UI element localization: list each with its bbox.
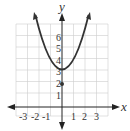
y-axis-label: y — [57, 0, 65, 14]
parabola-chart: y x -3 -2 -1 1 2 3 1 2 3 4 5 6 — [0, 0, 130, 131]
svg-text:3: 3 — [56, 66, 61, 77]
x-axis-right-arrow-icon — [112, 104, 120, 110]
svg-text:-2: -2 — [31, 111, 39, 122]
x-tick-labels: -3 -2 -1 1 2 3 — [19, 111, 99, 122]
svg-text:-3: -3 — [19, 111, 27, 122]
svg-text:5: 5 — [56, 43, 61, 54]
x-axis-label: x — [120, 99, 127, 114]
svg-text:2: 2 — [82, 111, 87, 122]
y-tick-labels: 1 2 3 4 5 6 — [56, 32, 61, 101]
svg-text:3: 3 — [94, 111, 99, 122]
svg-text:1: 1 — [56, 90, 61, 101]
svg-text:4: 4 — [56, 55, 61, 66]
x-axis-left-arrow-icon — [7, 104, 15, 110]
svg-text:2: 2 — [56, 78, 61, 89]
svg-text:6: 6 — [56, 32, 61, 43]
y-axis-down-arrow-icon — [59, 122, 65, 130]
svg-text:1: 1 — [71, 111, 76, 122]
svg-text:-1: -1 — [42, 111, 50, 122]
y-axis-up-arrow-icon — [59, 13, 65, 21]
